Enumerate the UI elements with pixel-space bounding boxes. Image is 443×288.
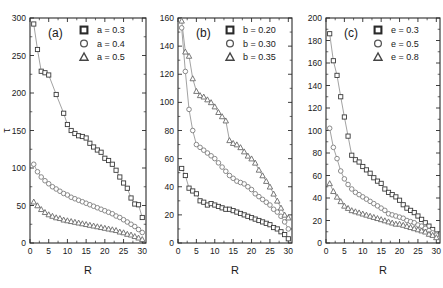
y-tick-label: 300	[12, 13, 26, 23]
data-point	[249, 187, 254, 192]
data-point	[327, 126, 332, 131]
y-tick-label: 20	[165, 210, 175, 220]
y-tick-label: 0	[317, 238, 322, 248]
x-tick-label: 25	[119, 246, 129, 256]
data-point	[328, 32, 332, 36]
x-tick-label: 30	[432, 246, 442, 256]
y-tick-label: 200	[308, 13, 322, 23]
y-tick-label: 100	[160, 97, 174, 107]
plot-c: 051015202530020406080100120140160180200R…	[294, 0, 443, 288]
x-tick-label: 0	[28, 246, 33, 256]
panel-label: (a)	[48, 26, 63, 40]
data-point	[275, 198, 280, 203]
data-point	[190, 76, 195, 81]
data-point	[346, 182, 351, 187]
figure-panels: 051015202530050100150200250300Rτ(a)a = 0…	[0, 0, 443, 288]
y-tick-label: 0	[169, 238, 174, 248]
data-point	[84, 136, 88, 140]
x-tick-label: 30	[284, 246, 294, 256]
x-tick-label: 10	[210, 246, 220, 256]
data-point	[271, 191, 276, 196]
data-point	[220, 165, 225, 170]
data-point	[121, 181, 125, 185]
data-point	[335, 73, 339, 77]
data-point	[357, 160, 361, 164]
legend-label: e = 0.3	[391, 25, 419, 35]
data-point	[286, 237, 290, 241]
data-point	[31, 199, 36, 204]
data-point	[54, 92, 58, 96]
data-point	[338, 169, 343, 174]
data-point	[65, 122, 69, 126]
legend-marker-triangle	[374, 53, 382, 60]
legend-label: e = 0.5	[391, 39, 419, 49]
data-point	[35, 47, 39, 51]
panel-label: (c)	[344, 26, 358, 40]
data-point	[194, 88, 199, 93]
panel-label: (b)	[196, 26, 211, 40]
data-point	[183, 69, 188, 74]
data-point	[194, 192, 198, 196]
plot-a: 051015202530050100150200250300Rτ(a)a = 0…	[0, 0, 150, 288]
x-tick-label: 15	[81, 246, 91, 256]
data-point	[32, 22, 36, 26]
data-point	[331, 59, 335, 63]
y-tick-label: 250	[12, 51, 26, 61]
y-tick-label: 40	[313, 193, 323, 203]
legend-marker-circle	[227, 40, 234, 47]
data-point	[260, 173, 265, 178]
plot-b: 051015202530020406080100120140160R(b)b =…	[148, 0, 296, 288]
legend-label: a = 0.3	[97, 25, 125, 35]
data-point	[278, 205, 283, 210]
data-point	[216, 110, 221, 115]
data-point	[190, 128, 195, 133]
legend-marker-triangle	[226, 53, 234, 60]
x-tick-label: 20	[100, 246, 110, 256]
y-tick-label: 20	[313, 216, 323, 226]
data-point	[350, 153, 354, 157]
x-axis-label: R	[84, 264, 92, 276]
x-axis-label: R	[231, 264, 239, 276]
y-tick-label: 0	[21, 238, 26, 248]
x-tick-label: 10	[358, 246, 368, 256]
legend-marker-square	[375, 27, 382, 34]
x-axis-label: R	[379, 264, 387, 276]
data-point	[114, 168, 118, 172]
data-point	[368, 171, 372, 175]
data-point	[342, 177, 347, 182]
data-point	[286, 227, 291, 232]
legend-marker-triangle	[80, 53, 88, 60]
data-point	[339, 95, 343, 99]
y-tick-label: 60	[165, 154, 175, 164]
data-point	[224, 169, 229, 174]
data-point	[140, 215, 144, 219]
data-point	[346, 134, 350, 138]
data-point	[216, 161, 221, 166]
data-point	[183, 173, 187, 177]
y-tick-label: 160	[308, 58, 322, 68]
data-point	[179, 18, 184, 23]
data-point	[268, 203, 273, 208]
x-tick-label: 25	[265, 246, 275, 256]
data-point	[62, 111, 66, 115]
data-point	[327, 181, 332, 186]
x-tick-label: 5	[342, 246, 347, 256]
data-point	[31, 162, 36, 167]
y-tick-label: 80	[313, 148, 323, 158]
data-point	[110, 162, 114, 166]
y-tick-label: 80	[165, 126, 175, 136]
y-tick-label: 120	[308, 103, 322, 113]
y-tick-label: 160	[160, 13, 174, 23]
data-point	[118, 175, 122, 179]
plot-frame	[30, 18, 146, 243]
x-tick-label: 5	[46, 246, 51, 256]
data-point	[264, 178, 269, 183]
data-point	[187, 107, 192, 112]
data-point	[129, 196, 133, 200]
legend-label: b = 0.35	[243, 52, 276, 62]
data-point	[180, 166, 184, 170]
y-tick-label: 50	[17, 201, 27, 211]
y-tick-label: 150	[12, 126, 26, 136]
y-tick-label: 120	[160, 69, 174, 79]
x-tick-label: 15	[228, 246, 238, 256]
